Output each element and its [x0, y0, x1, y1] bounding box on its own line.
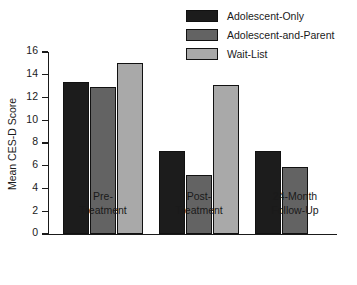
y-axis-tick-label: 6 — [32, 158, 38, 171]
legend-label-adolescent-only: Adolescent-Only — [227, 10, 304, 22]
y-axis-tick-label: 2 — [32, 204, 38, 217]
legend-swatch-adolescent-and-parent — [186, 29, 218, 41]
y-axis-title: Mean CES-D Score — [6, 98, 18, 190]
y-axis-tick-label: 16 — [26, 44, 38, 57]
y-axis-tick-label: 0 — [32, 226, 38, 239]
y-axis-title-container: Mean CES-D Score — [14, 52, 15, 234]
legend-label-adolescent-and-parent: Adolescent-and-Parent — [227, 29, 334, 41]
bar-chart-figure: Adolescent-Only Adolescent-and-Parent Wa… — [0, 0, 357, 285]
legend-item-adolescent-only: Adolescent-Only — [186, 7, 356, 25]
x-axis-category-label: Pre- Treatment — [48, 190, 158, 217]
y-axis-tick-label: 4 — [32, 181, 38, 194]
y-axis-tick-label: 14 — [26, 67, 38, 80]
x-axis-category-label: Post- Treatment — [144, 190, 254, 217]
legend-item-adolescent-and-parent: Adolescent-and-Parent — [186, 26, 356, 44]
y-axis-tick-label: 8 — [32, 135, 38, 148]
x-axis-line — [48, 234, 337, 235]
y-axis-tick-label: 10 — [26, 113, 38, 126]
x-axis-category-label: 24-Month Follow-Up — [240, 190, 350, 217]
legend-swatch-adolescent-only — [186, 10, 218, 22]
y-axis-tick-label: 12 — [26, 90, 38, 103]
